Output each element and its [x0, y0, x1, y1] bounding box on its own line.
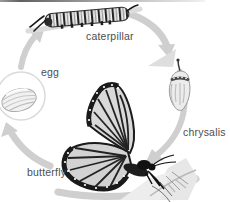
chrysalis-label: chrysalis [183, 127, 226, 138]
chrysalis-icon [148, 49, 190, 110]
butterfly-icon [64, 84, 176, 189]
egg-icon [0, 72, 45, 120]
life-cycle-diagram: caterpillar egg chrysalis butterfly [0, 0, 230, 202]
caterpillar-icon [28, 5, 140, 31]
caterpillar-label: caterpillar [86, 31, 134, 42]
butterfly-label: butterfly [27, 167, 66, 178]
egg-label: egg [41, 67, 59, 78]
